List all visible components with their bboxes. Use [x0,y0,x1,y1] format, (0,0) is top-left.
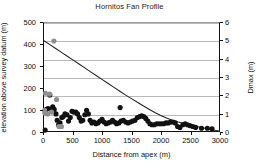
y-axis-left-tick-label: 500 [8,18,36,27]
data-layer [44,23,219,131]
data-point [118,105,123,110]
x-axis-tick-label: 1500 [114,136,150,145]
x-axis-tick [102,132,103,135]
data-point [54,97,59,102]
x-axis-tick-label: 0 [25,136,61,145]
y-axis-right-title-text: Dmax (m) [246,61,255,93]
y-axis-right-tick [220,77,223,78]
y-axis-left-tick-label: 100 [8,106,36,115]
x-axis-tick-label: 3000 [202,136,238,145]
data-point [53,111,58,116]
x-axis-tick [73,132,74,135]
data-point [205,126,210,131]
y-axis-left-title: elevation above survey datum (m) [0,22,9,132]
data-point [193,125,198,130]
scatter-series [43,92,215,132]
x-axis-tick-label: 500 [55,136,91,145]
y-axis-left-tick-label: 0 [8,128,36,137]
x-axis-tick-label: 1000 [84,136,120,145]
data-point [199,126,204,131]
data-point [47,92,52,97]
data-point [51,38,56,43]
x-axis-tick [132,132,133,135]
y-axis-right-title: Dmax (m) [243,22,257,132]
data-point [59,124,64,129]
y-axis-left-tick-label: 300 [8,62,36,71]
y-axis-right-tick [220,114,223,115]
x-axis-tick [43,132,44,135]
y-axis-right-tick [220,132,223,133]
chart-title: Hornitos Fan Profile [0,2,259,11]
x-axis-tick [191,132,192,135]
data-point [80,118,85,123]
chart-figure: Hornitos Fan Profile 0100200300400500 01… [0,0,259,167]
plot-area [43,22,220,132]
x-axis-tick [161,132,162,135]
x-axis-tick-label: 2500 [173,136,209,145]
x-axis-tick [220,132,221,135]
data-point [68,115,73,120]
y-axis-left-title-text: elevation above survey datum (m) [0,22,9,132]
y-axis-right-tick [220,95,223,96]
y-axis-right-tick [220,59,223,60]
data-point [86,111,91,116]
y-axis-left-tick-label: 200 [8,84,36,93]
data-point [209,126,214,131]
data-point [43,128,48,133]
y-axis-right-tick [220,22,223,23]
x-axis-tick-label: 2000 [143,136,179,145]
data-point [49,110,54,115]
y-axis-left-tick-label: 400 [8,40,36,49]
y-axis-left-tick [40,132,43,133]
y-axis-right-tick [220,40,223,41]
x-axis-title: Distance from apex (m) [43,150,220,159]
